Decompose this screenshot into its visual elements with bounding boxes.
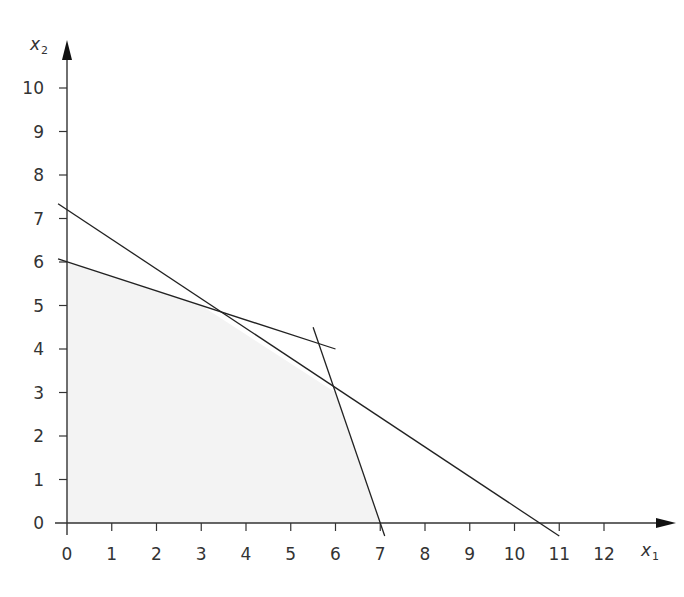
x-tick-label: 11 (548, 544, 570, 564)
y-tick-label: 10 (22, 78, 44, 98)
x-tick-label: 7 (375, 544, 386, 564)
x-tick-label: 5 (285, 544, 296, 564)
y-axis-label: x (29, 34, 41, 54)
x-axis-label: x (640, 540, 652, 560)
y-tick-label: 1 (33, 470, 44, 490)
y-axis-arrow-icon (62, 40, 72, 60)
y-tick-label: 6 (33, 252, 44, 272)
y-tick-label: 7 (33, 209, 44, 229)
y-tick-label: 2 (33, 426, 44, 446)
x-tick-label: 8 (420, 544, 431, 564)
lp-feasible-region-chart: 0123456789101112012345678910x1x2 (0, 0, 684, 597)
y-tick-label: 3 (33, 383, 44, 403)
x-tick-label: 0 (62, 544, 73, 564)
x-tick-label: 2 (151, 544, 162, 564)
y-tick-label: 5 (33, 296, 44, 316)
x-axis-label-subscript: 1 (652, 550, 659, 563)
feasible-region-polygon (67, 262, 380, 523)
y-axis-label-subscript: 2 (41, 44, 48, 57)
x-axis-arrow-icon (656, 518, 676, 528)
feasible-region (67, 262, 380, 523)
x-tick-label: 1 (106, 544, 117, 564)
y-tick-label: 8 (33, 165, 44, 185)
x-tick-label: 9 (464, 544, 475, 564)
x-tick-label: 6 (330, 544, 341, 564)
y-tick-label: 4 (33, 339, 44, 359)
x-tick-label: 12 (593, 544, 615, 564)
x-tick-label: 3 (196, 544, 207, 564)
y-tick-label: 9 (33, 122, 44, 142)
y-tick-label: 0 (33, 513, 44, 533)
x-tick-label: 10 (504, 544, 526, 564)
x-tick-label: 4 (241, 544, 252, 564)
